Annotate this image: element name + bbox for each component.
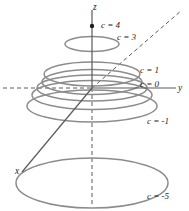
x-axis-positive bbox=[22, 88, 92, 172]
solid-axis-lines bbox=[22, 10, 176, 172]
contour-label-c-5: c = -5 bbox=[147, 192, 169, 201]
figure-canvas bbox=[0, 0, 189, 211]
axis-label-y: y bbox=[178, 84, 182, 94]
vertex-marker bbox=[90, 24, 94, 28]
contour-label-c-1: c = -1 bbox=[147, 117, 169, 126]
axis-label-z: z bbox=[93, 3, 97, 13]
contour-label-c4: c = 4 bbox=[101, 21, 120, 30]
vertex-point bbox=[90, 24, 94, 28]
contour-label-c1: c = 1 bbox=[140, 66, 159, 75]
contour-label-c0: c = 0 bbox=[140, 80, 159, 89]
contour-label-c3: c = 3 bbox=[117, 33, 136, 42]
axis-label-x: x bbox=[15, 167, 19, 177]
level-curves-figure: z y x c = 4c = 3c = 1c = 0c = -1c = -5 bbox=[0, 0, 189, 211]
